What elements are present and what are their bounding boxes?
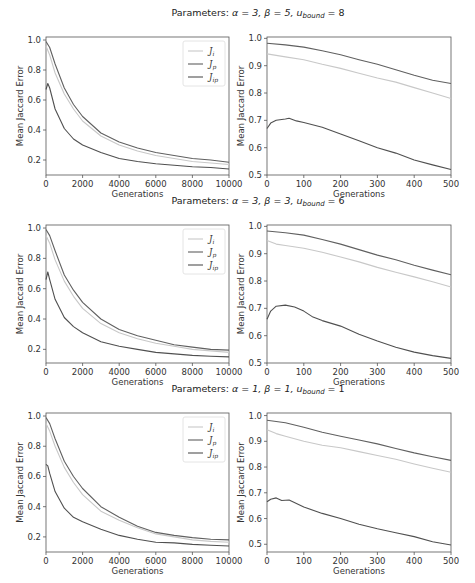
panel-2: Parameters: α = 3, β = 3, ubound = 60200… xyxy=(15,195,459,387)
x-tick-label: 400 xyxy=(406,179,422,189)
legend: JiJpJip xyxy=(183,41,225,86)
x-tick-label: 2000 xyxy=(72,367,94,377)
x-tick-label: 200 xyxy=(332,556,348,566)
x-tick-label: 0 xyxy=(43,179,48,189)
plot-area xyxy=(267,37,451,175)
x-tick-label: 300 xyxy=(369,556,385,566)
y-axis-label: Mean Jaccard Error xyxy=(236,442,246,523)
x-tick-label: 2000 xyxy=(72,556,94,566)
x-tick-label: 100 xyxy=(296,179,312,189)
panel-title: Parameters: α = 3, β = 3, ubound = 6 xyxy=(171,195,344,208)
plot-area xyxy=(267,225,451,363)
y-tick-label: 1.0 xyxy=(27,411,41,421)
y-axis-label: Mean Jaccard Error xyxy=(236,65,246,146)
x-tick-label: 8000 xyxy=(182,179,204,189)
y-tick-label: 0.2 xyxy=(27,532,41,542)
y-tick-label: 0.6 xyxy=(248,143,262,153)
y-tick-label: 0.2 xyxy=(27,344,41,354)
x-tick-label: 6000 xyxy=(145,367,167,377)
x-tick-label: 300 xyxy=(369,367,385,377)
y-tick-label: 0.8 xyxy=(27,65,41,75)
x-tick-label: 8000 xyxy=(182,556,204,566)
y-tick-label: 0.8 xyxy=(248,88,262,98)
y-tick-label: 1.0 xyxy=(27,223,41,233)
x-tick-label: 10000 xyxy=(215,179,242,189)
full-run-chart: 02000400060008000100000.20.40.60.81.0Gen… xyxy=(15,35,243,199)
y-axis-label: Mean Jaccard Error xyxy=(236,253,246,334)
x-tick-label: 4000 xyxy=(108,367,130,377)
legend: JiJpJip xyxy=(183,229,225,274)
y-tick-label: 0.8 xyxy=(248,276,262,286)
y-tick-label: 1.0 xyxy=(27,35,41,45)
y-tick-label: 0.6 xyxy=(27,471,41,481)
y-axis-label: Mean Jaccard Error xyxy=(15,65,25,146)
x-tick-label: 0 xyxy=(43,556,48,566)
full-run-chart: 02000400060008000100000.20.40.60.81.0Gen… xyxy=(15,223,243,387)
x-tick-label: 6000 xyxy=(145,556,167,566)
y-tick-label: 0.8 xyxy=(27,441,41,451)
y-tick-label: 0.6 xyxy=(248,331,262,341)
y-axis-label: Mean Jaccard Error xyxy=(15,253,25,334)
zoomed-chart: 01002003004005000.50.60.70.80.91.0Genera… xyxy=(236,33,459,199)
x-tick-label: 400 xyxy=(406,367,422,377)
y-tick-label: 0.9 xyxy=(248,249,262,259)
panel-1: Parameters: α = 3, β = 5, ubound = 80200… xyxy=(15,7,459,199)
panel-title: Parameters: α = 1, β = 1, ubound = 1 xyxy=(171,383,344,396)
y-tick-label: 1.0 xyxy=(248,221,262,231)
y-tick-label: 0.6 xyxy=(248,514,262,524)
y-tick-label: 0.7 xyxy=(248,303,262,313)
y-tick-label: 0.5 xyxy=(248,539,262,549)
y-tick-label: 0.8 xyxy=(248,462,262,472)
x-tick-label: 2000 xyxy=(72,179,94,189)
y-tick-label: 0.7 xyxy=(248,488,262,498)
x-tick-label: 4000 xyxy=(108,556,130,566)
x-tick-label: 100 xyxy=(296,556,312,566)
x-tick-label: 200 xyxy=(332,367,348,377)
x-axis-label: Generations xyxy=(112,377,164,387)
x-tick-label: 10000 xyxy=(215,367,242,377)
panel-3: Parameters: α = 1, β = 1, ubound = 10200… xyxy=(15,383,459,576)
legend: JiJpJip xyxy=(183,417,225,462)
x-axis-label: Generations xyxy=(112,566,164,576)
x-tick-label: 10000 xyxy=(215,556,242,566)
x-tick-label: 400 xyxy=(406,556,422,566)
y-tick-label: 0.5 xyxy=(248,170,262,180)
x-tick-label: 8000 xyxy=(182,367,204,377)
figure: Parameters: α = 3, β = 5, ubound = 80200… xyxy=(0,0,475,583)
x-tick-label: 0 xyxy=(264,179,269,189)
y-tick-label: 0.9 xyxy=(248,61,262,71)
panel-title: Parameters: α = 3, β = 5, ubound = 8 xyxy=(171,7,344,20)
x-tick-label: 0 xyxy=(43,367,48,377)
x-axis-label: Generations xyxy=(112,189,164,199)
y-tick-label: 0.4 xyxy=(27,502,41,512)
y-tick-label: 1.0 xyxy=(248,411,262,421)
full-run-chart: 02000400060008000100000.20.40.60.81.0Gen… xyxy=(15,411,243,576)
x-axis-label: Generations xyxy=(333,566,385,576)
x-tick-label: 300 xyxy=(369,179,385,189)
x-tick-label: 0 xyxy=(264,556,269,566)
y-tick-label: 0.6 xyxy=(27,95,41,105)
plot-area xyxy=(267,413,451,552)
x-tick-label: 500 xyxy=(443,179,459,189)
y-tick-label: 1.0 xyxy=(248,33,262,43)
x-tick-label: 0 xyxy=(264,367,269,377)
zoomed-chart: 01002003004005000.50.60.70.80.91.0Genera… xyxy=(236,411,459,576)
x-tick-label: 100 xyxy=(296,367,312,377)
zoomed-chart: 01002003004005000.50.60.70.80.91.0Genera… xyxy=(236,221,459,387)
x-tick-label: 200 xyxy=(332,179,348,189)
y-tick-label: 0.4 xyxy=(27,314,41,324)
x-tick-label: 4000 xyxy=(108,179,130,189)
y-tick-label: 0.9 xyxy=(248,436,262,446)
x-tick-label: 6000 xyxy=(145,179,167,189)
x-tick-label: 500 xyxy=(443,367,459,377)
y-tick-label: 0.5 xyxy=(248,358,262,368)
x-tick-label: 500 xyxy=(443,556,459,566)
y-tick-label: 0.2 xyxy=(27,155,41,165)
y-tick-label: 0.6 xyxy=(27,284,41,294)
y-axis-label: Mean Jaccard Error xyxy=(15,442,25,523)
y-tick-label: 0.4 xyxy=(27,125,41,135)
y-tick-label: 0.7 xyxy=(248,115,262,125)
y-tick-label: 0.8 xyxy=(27,253,41,263)
